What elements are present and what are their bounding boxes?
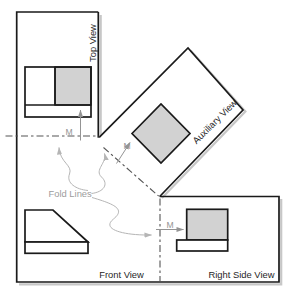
front-view-body	[25, 210, 88, 242]
fold-line-diagonal	[104, 148, 159, 197]
fold-lines-label: Fold Lines	[49, 188, 93, 199]
auxiliary-true-surface	[132, 104, 190, 163]
front-view-label: Front View	[99, 269, 144, 280]
right-side-view-label: Right Side View	[208, 269, 274, 280]
leader-to-vertical-fold	[92, 198, 152, 236]
top-view-inclined-surface	[55, 67, 91, 105]
side-view-inclined-surface	[187, 209, 228, 240]
right-side-view-drawing	[177, 209, 228, 251]
front-view-base	[25, 242, 88, 253]
front-view-drawing	[25, 210, 88, 253]
leader-to-horizontal-fold	[59, 148, 88, 191]
leader-to-diagonal-fold	[92, 154, 106, 194]
dim-label-top: M	[66, 127, 73, 137]
technical-drawing-figure: Top View Auxiliary View Front View Right…	[0, 0, 295, 300]
dim-label-aux: M	[124, 141, 131, 151]
dim-label-right: M	[167, 220, 174, 230]
auxiliary-view-drawing	[132, 104, 190, 163]
top-view-drawing	[25, 67, 91, 117]
top-view-label: Top View	[87, 24, 98, 62]
drawing-canvas: Top View Auxiliary View Front View Right…	[0, 0, 295, 300]
fold-lines-group	[6, 136, 161, 282]
side-view-base	[177, 240, 228, 251]
